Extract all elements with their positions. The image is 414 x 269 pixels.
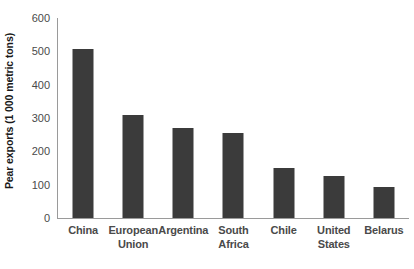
bar-slot xyxy=(158,18,208,218)
x-axis-line xyxy=(57,218,409,219)
x-axis-tick-label-line: Africa xyxy=(208,237,258,251)
y-axis-tick-label: 400 xyxy=(32,79,50,91)
bar-slot xyxy=(359,18,409,218)
bar-slot xyxy=(58,18,108,218)
bar-chart: Pear exports (1 000 metric tons) 6005004… xyxy=(0,0,414,269)
bar-slot xyxy=(259,18,309,218)
x-axis-tick-label: SouthAfrica xyxy=(208,223,258,251)
y-axis-tick-label: 200 xyxy=(32,145,50,157)
x-axis-tick-label: Argentina xyxy=(158,223,208,237)
x-axis-tick-label: EuropeanUnion xyxy=(108,223,158,251)
y-axis-tick-label: 100 xyxy=(32,179,50,191)
y-axis-tick-labels: 6005004003002001000 xyxy=(18,0,54,269)
y-axis-tick-label: 0 xyxy=(44,212,50,224)
x-axis-tick-label-line: Belarus xyxy=(359,223,409,237)
x-axis-tick-label-line: United xyxy=(309,223,359,237)
x-axis-tick-label: Chile xyxy=(259,223,309,237)
bar xyxy=(123,115,144,218)
bar-slot xyxy=(108,18,158,218)
x-axis-tick-label-line: China xyxy=(58,223,108,237)
bar xyxy=(323,176,344,218)
x-axis-tick-label: Belarus xyxy=(359,223,409,237)
bar xyxy=(173,128,194,218)
y-axis-tick-label: 300 xyxy=(32,112,50,124)
x-axis-tick-label-line: States xyxy=(309,237,359,251)
y-axis-tick-label: 500 xyxy=(32,45,50,57)
bar xyxy=(73,49,94,218)
bar xyxy=(273,168,294,218)
y-axis-tick-label: 600 xyxy=(32,12,50,24)
bar xyxy=(223,133,244,218)
x-axis-tick-label-line: South xyxy=(208,223,258,237)
x-axis-tick-label: UnitedStates xyxy=(309,223,359,251)
x-axis-tick-label: China xyxy=(58,223,108,237)
y-axis-title-text: Pear exports (1 000 metric tons) xyxy=(3,33,15,189)
x-axis-tick-label-line: European xyxy=(108,223,158,237)
bar-slot xyxy=(309,18,359,218)
bar-slot xyxy=(208,18,258,218)
y-axis-title: Pear exports (1 000 metric tons) xyxy=(0,0,18,222)
x-axis-tick-label-line: Union xyxy=(108,237,158,251)
bar xyxy=(373,187,394,218)
x-axis-tick-label-line: Chile xyxy=(259,223,309,237)
x-axis-tick-labels: ChinaEuropeanUnionArgentinaSouthAfricaCh… xyxy=(58,223,409,269)
plot-area xyxy=(58,18,409,218)
x-axis-tick-label-line: Argentina xyxy=(158,223,208,237)
